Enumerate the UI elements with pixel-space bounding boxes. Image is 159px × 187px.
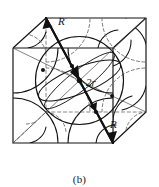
atom-dot-lower-node (94, 110, 98, 114)
bottom-face-hidden-arcs (46, 112, 146, 132)
hidden-arc-back-top-left (46, 18, 90, 62)
arc-top-front-right (98, 30, 118, 48)
figure-container: R 2r R (b) (0, 0, 159, 187)
figure-caption: (b) (0, 173, 159, 185)
hidden-arc-back-bottom-right (102, 68, 146, 112)
arc-bottom-front-left (30, 127, 46, 143)
hidden-arc-left-lower (26, 82, 52, 124)
atom-dot-center (77, 78, 82, 83)
hidden-arc-left-upper (26, 34, 46, 52)
atom-dot-right-node (110, 94, 114, 98)
bcc-unit-cell-diagram: R 2r R (0, 0, 159, 187)
bottom-face-corner-arcs (30, 125, 116, 143)
label-R-top: R (57, 15, 65, 27)
atom-dot-left-node (41, 68, 45, 72)
label-R-bottom: R (109, 118, 117, 130)
arc-right-top (122, 22, 146, 44)
top-back-outline (13, 18, 146, 48)
right-back-outline (113, 18, 146, 143)
arc-right-front-top (113, 40, 131, 66)
atom-dot-upper-node (70, 64, 74, 68)
label-2r-diagonal: 2r (86, 76, 97, 88)
arc-front-bottom-right (68, 98, 113, 143)
